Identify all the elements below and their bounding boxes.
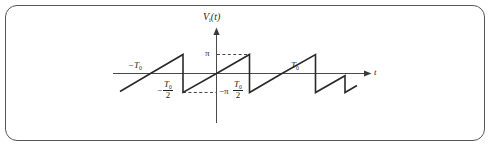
waveform-svg — [0, 0, 492, 147]
half-T0-denominator: 2 — [233, 91, 243, 100]
neg-T0-subscript: 0 — [139, 65, 142, 71]
tick-label-neg-T0: −T0 — [128, 61, 142, 71]
neg-half-T0-denominator: 2 — [163, 91, 173, 100]
tick-label-neg-pi: −π — [219, 87, 229, 96]
tick-label-neg-half-T0: − T0 2 — [157, 80, 173, 100]
sawtooth-plot: Vi(t) t −T0 T0 − T0 2 T0 2 π −π — [0, 0, 492, 147]
y-axis-label: Vi(t) — [203, 12, 220, 23]
neg-T0-text: −T — [128, 60, 139, 70]
tick-label-pi: π — [205, 49, 210, 58]
neg-half-T0-fraction: T0 2 — [163, 80, 173, 100]
tick-label-half-T0: T0 2 — [233, 80, 243, 100]
tick-label-T0: T0 — [291, 61, 299, 71]
half-T0-fraction: T0 2 — [233, 80, 243, 100]
T0-subscript: 0 — [296, 65, 299, 71]
y-axis-arrowhead — [213, 28, 219, 36]
neg-half-T0-num-subscript: 0 — [169, 84, 172, 90]
y-axis-label-arg: (t) — [211, 11, 220, 22]
x-axis-arrowhead — [364, 70, 372, 76]
x-axis-label: t — [374, 68, 377, 77]
half-T0-num-subscript: 0 — [239, 84, 242, 90]
